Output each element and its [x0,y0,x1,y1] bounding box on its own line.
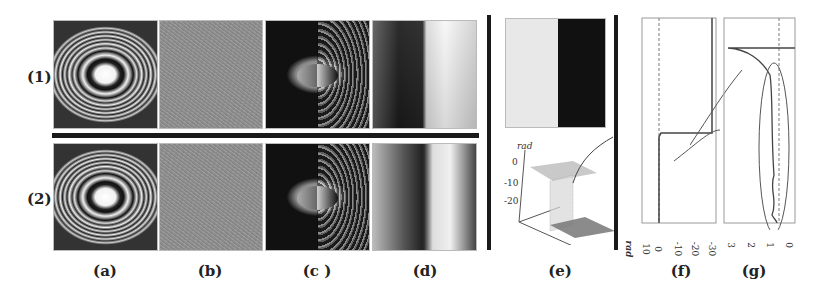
panel-e-binary-step [505,18,606,128]
column-separator-2 [614,15,618,250]
panel-b-row2-noise-image [159,143,263,251]
plot-f-axis-label: rad [624,241,634,258]
panel-a-row1-fringe-image [53,20,158,129]
plot-g-tick-3: 3 [726,242,736,248]
plot-g-tick-0: 0 [784,242,794,248]
caption-a: (a) [85,262,125,280]
plot-g-tick-2: 2 [746,242,756,248]
plot-f-tick-10: 10 [641,243,651,254]
row-separator [52,133,479,138]
row-label-2: (2) [27,190,52,208]
plot-e-tick-minus20: -20 [504,196,519,206]
panel-d-row2-phase-step [372,143,477,251]
plot-g-tick-1: 1 [765,242,775,248]
caption-f: (f) [661,262,701,280]
caption-c: (c ) [297,262,337,280]
caption-g: (g) [734,262,774,280]
plot-f-tick-minus20: -20 [690,242,700,257]
panel-g-residual-plot [722,15,802,230]
panel-c-row2-wrapped-phase [265,143,370,251]
plot-f-tick-minus30: -30 [707,242,717,257]
caption-d: (d) [405,262,445,280]
column-separator-1 [487,15,491,250]
plot-f-tick-minus10: -10 [673,242,683,257]
panel-a-row2-fringe-image [53,143,158,251]
panel-c-row1-wrapped-phase [265,20,370,129]
plot-e-z-label: rad [517,141,532,151]
panel-b-row1-noise-image [159,20,263,129]
caption-e: (e) [540,262,580,280]
row-label-1: (1) [27,68,52,86]
panel-d-row1-phase-step [372,20,477,129]
plot-e-tick-minus10: -10 [504,178,519,188]
plot-f-tick-0: 0 [653,246,663,252]
caption-b: (b) [190,262,230,280]
plot-e-tick-0: 0 [512,157,518,167]
panel-e-3d-surface-plot [505,135,615,245]
